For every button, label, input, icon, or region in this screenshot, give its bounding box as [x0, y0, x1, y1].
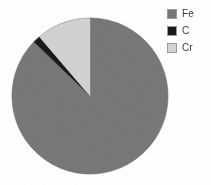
legend-item-fe[interactable]: Fe	[167, 8, 207, 19]
legend-label-fe: Fe	[182, 8, 194, 19]
pie-chart-figure: Fe 87.5%C 1.5%Cr 11% Fe C Cr	[0, 0, 211, 185]
legend-swatch-fe	[167, 9, 177, 19]
chart-legend: Fe C Cr	[167, 8, 207, 53]
legend-swatch-cr	[167, 43, 177, 53]
pie-chart-svg: Fe 87.5%C 1.5%Cr 11%	[0, 0, 170, 185]
legend-item-cr[interactable]: Cr	[167, 42, 207, 53]
legend-swatch-c	[167, 26, 177, 36]
legend-item-c[interactable]: C	[167, 25, 207, 36]
pie-slices-group: Fe 87.5%C 1.5%Cr 11%	[12, 18, 168, 174]
legend-label-cr: Cr	[182, 42, 193, 53]
legend-label-c: C	[182, 25, 189, 36]
chart-plot-area: Fe 87.5%C 1.5%Cr 11%	[0, 0, 170, 185]
